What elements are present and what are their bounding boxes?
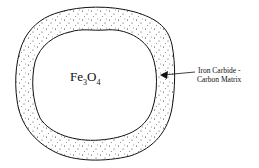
particle-diagram <box>0 0 259 168</box>
core-label: Fe3O4 <box>70 69 100 87</box>
shell-label-line2: Carbon Matrix <box>197 75 241 84</box>
shell-label: Iron Carbide - Carbon Matrix <box>197 66 241 84</box>
shell-label-line1: Iron Carbide - <box>197 66 241 75</box>
